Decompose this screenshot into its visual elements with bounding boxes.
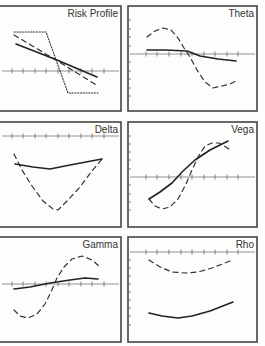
panel-title: Delta	[95, 124, 119, 135]
series-dashed-line	[149, 143, 230, 209]
series-dashed-line	[14, 154, 102, 210]
panel-title: Vega	[231, 124, 254, 135]
panel-title: Gamma	[82, 239, 118, 250]
greeks-chart-grid: Risk ProfileThetaDeltaVegaGammaRho	[0, 0, 265, 346]
series-solid-line	[149, 141, 228, 199]
panel-frame	[0, 122, 121, 227]
series-solid-line	[149, 302, 233, 318]
panel-delta: Delta	[0, 122, 121, 227]
series-dashed-line	[147, 28, 236, 88]
panel-title: Risk Profile	[67, 8, 118, 19]
panel-frame	[0, 6, 121, 111]
panel-theta: Theta	[128, 6, 257, 111]
series-current-line	[16, 44, 97, 77]
series-dashed-line	[149, 260, 230, 273]
panel-gamma: Gamma	[0, 237, 121, 342]
panel-frame	[0, 237, 121, 342]
panel-frame	[128, 6, 257, 111]
series-intermediate-line	[14, 35, 98, 86]
panel-vega: Vega	[128, 122, 257, 227]
panel-risk-profile: Risk Profile	[0, 6, 121, 111]
panel-title: Rho	[236, 239, 255, 250]
series-solid-line	[15, 159, 102, 169]
panel-rho: Rho	[128, 237, 257, 342]
series-expiration-line	[14, 32, 98, 93]
panel-title: Theta	[228, 8, 254, 19]
